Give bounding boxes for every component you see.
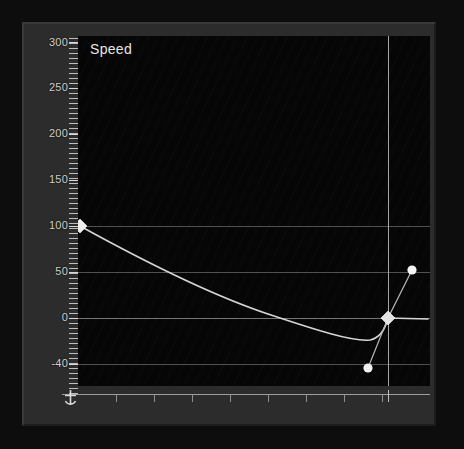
in-handle-line (368, 318, 388, 368)
y-tick-label: 50 (55, 265, 68, 277)
y-tick-label: 100 (49, 219, 68, 231)
out-handle-line (388, 270, 412, 318)
y-axis-ruler[interactable] (69, 38, 78, 396)
timeline-tick (382, 394, 383, 402)
y-tick-label: 200 (49, 127, 68, 139)
timeline-playhead[interactable] (388, 390, 389, 402)
in-handle-dot[interactable] (363, 363, 372, 372)
timeline-tick (268, 394, 269, 402)
timeline-tick (192, 394, 193, 402)
end-keyframe-marker[interactable] (381, 311, 395, 325)
animation-curve-svg (78, 36, 430, 386)
timeline-tick (306, 394, 307, 402)
y-tick-label: 250 (49, 81, 68, 93)
out-handle-dot[interactable] (407, 265, 416, 274)
time-anchor-marker-icon[interactable] (64, 390, 77, 406)
y-tick-label: 300 (49, 36, 68, 48)
timeline-tick (116, 394, 117, 402)
timeline-ruler[interactable] (62, 390, 430, 412)
speed-graph-editor: 300 250 200 150 100 50 0 -40 Speed (0, 0, 464, 449)
y-axis: 300 250 200 150 100 50 0 -40 (30, 34, 72, 390)
start-keyframe-marker[interactable] (78, 219, 87, 233)
y-tick-label: 150 (49, 173, 68, 185)
y-tick-label: -40 (52, 357, 69, 369)
timeline-tick (230, 394, 231, 402)
curve-plot-area[interactable]: Speed (78, 36, 430, 386)
speed-curve-path[interactable] (80, 226, 428, 340)
timeline-tick (154, 394, 155, 402)
y-tick-label: 0 (62, 311, 68, 323)
timeline-baseline (62, 394, 430, 395)
timeline-tick (344, 394, 345, 402)
